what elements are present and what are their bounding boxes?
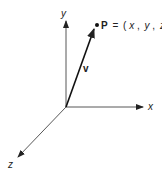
x-axis-label: x	[147, 101, 154, 112]
vector-v-label: v	[83, 63, 89, 74]
vector-v-arrow	[66, 29, 94, 107]
coord-sep-2: ,	[152, 20, 155, 31]
coords-open-paren: (	[123, 20, 127, 31]
coord-x: x	[128, 20, 135, 31]
point-p-label: P = ( x , y , z )	[101, 20, 162, 31]
coord-sep-1: ,	[137, 20, 140, 31]
y-axis-label: y	[60, 8, 67, 19]
point-p-name: P	[101, 20, 108, 31]
point-p-dot	[95, 23, 99, 27]
z-axis-label: z	[7, 159, 13, 170]
coord-z: z	[159, 20, 162, 31]
coord-y: y	[144, 20, 151, 31]
point-p-equals: =	[112, 20, 118, 31]
vector-3d-diagram: y x z v P = ( x , y , z )	[0, 0, 162, 174]
z-axis	[18, 107, 66, 157]
